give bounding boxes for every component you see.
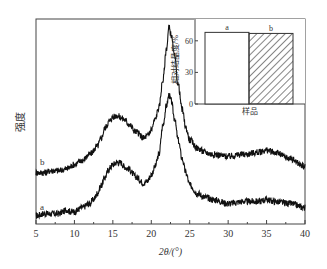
series-label-b: b [40,157,45,167]
series-label-a: a [40,202,44,212]
x-tick-label: 30 [223,228,233,239]
series-line-a [36,93,305,219]
inset-x-axis-label: 样品 [242,106,258,116]
x-tick-label: 10 [69,228,79,239]
x-tick-label: 20 [146,228,156,239]
x-tick-label: 40 [300,228,310,239]
x-axis-label: 2θ/(°) [159,246,183,258]
inset-bar-label: a [225,23,229,32]
x-tick-label: 25 [185,228,195,239]
inset-bar-chart: 03060相对结晶度/%ab样品 [170,19,305,116]
inset-y-tick-label: 30 [185,68,193,77]
y-axis-label: 强度 [14,112,26,132]
x-tick-label: 35 [262,228,272,239]
x-tick-label: 15 [108,228,118,239]
inset-y-axis-label: 相对结晶度/% [170,35,180,84]
inset-bar-label: b [269,24,273,33]
x-tick-label: 5 [34,228,39,239]
inset-bar-b [249,33,293,104]
inset-y-tick-label: 0 [189,100,193,109]
inset-bar-a [205,32,249,104]
inset-y-tick-label: 60 [185,37,193,46]
xrd-chart: 5101520253035402θ/(°)强度ab 03060相对结晶度/%ab… [0,0,327,269]
